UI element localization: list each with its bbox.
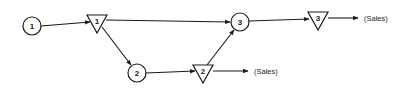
edge-t1-c2: [102, 27, 131, 65]
node-label: 2: [135, 69, 140, 78]
sink-label-sales-2: (Sales): [254, 67, 278, 76]
edge-c2-t2: [146, 71, 195, 73]
edge-t1-c3: [106, 20, 230, 22]
node-circle-2: 2: [128, 64, 146, 82]
node-label: 1: [95, 17, 100, 26]
node-circle-3: 3: [231, 13, 249, 31]
node-label: 3: [316, 14, 321, 23]
edge-c3-t3: [249, 19, 309, 21]
node-label: 1: [30, 22, 35, 31]
flow-diagram: 1 2 3 1 2 3 (Sales) (Sales): [0, 0, 405, 91]
edge-c1-t1: [41, 22, 90, 26]
node-triangle-3: 3: [308, 12, 328, 30]
node-triangle-2: 2: [193, 65, 213, 83]
node-label: 3: [238, 18, 243, 27]
sink-label-sales-3: (Sales): [364, 14, 388, 23]
node-circle-1: 1: [23, 17, 41, 35]
node-label: 2: [201, 67, 206, 76]
edge-t2-c3: [207, 30, 234, 65]
